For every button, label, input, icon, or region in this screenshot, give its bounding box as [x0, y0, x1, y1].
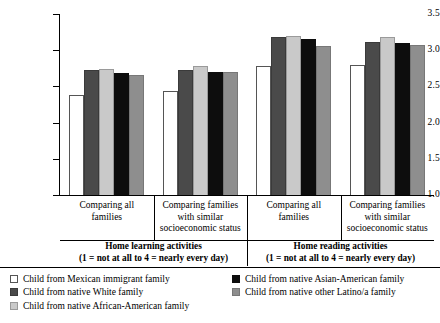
legend-column-right: Child from native Asian-American familyC… — [232, 272, 404, 299]
category-label-line: Comparing families — [341, 200, 435, 212]
y-tick-mark — [53, 50, 59, 51]
category-label-line: families — [247, 212, 341, 224]
bars-container — [60, 14, 434, 196]
category-label-line: socioeconomic status — [154, 223, 248, 235]
category-label: Comparing allfamilies — [247, 196, 341, 242]
category-label: Comparing allfamilies — [60, 196, 154, 242]
category-label-line: families — [60, 212, 154, 224]
category-label-line: with similar — [341, 212, 435, 224]
category-label-line: with similar — [154, 212, 248, 224]
legend-swatch-icon — [10, 275, 18, 283]
section-title-text: Home learning activities — [60, 241, 247, 253]
bar — [271, 37, 286, 196]
bar — [84, 70, 99, 196]
bar-group — [60, 14, 154, 196]
category-label-line: Comparing all — [60, 200, 154, 212]
legend-swatch-icon — [232, 275, 240, 283]
legend-swatch-icon — [10, 302, 18, 310]
legend-column-left: Child from Mexican immigrant familyChild… — [10, 272, 189, 313]
bar — [129, 75, 144, 196]
category-separator — [341, 196, 342, 241]
legend-label: Child from native African-American famil… — [23, 301, 189, 311]
legend-item[interactable]: Child from native White family — [10, 286, 189, 300]
plot-area: 1.01.52.02.53.03.5 — [0, 0, 440, 196]
bar — [69, 95, 84, 196]
bar — [301, 39, 316, 196]
category-label: Comparing familieswith similarsocioecono… — [154, 196, 248, 242]
y-tick-mark — [53, 86, 59, 87]
section-titles: Home learning activities(1 = not at all … — [60, 241, 434, 267]
bar-group — [247, 14, 341, 196]
legend-swatch-icon — [232, 288, 240, 296]
bar-chart: 1.01.52.02.53.03.5 Comparing allfamilies… — [0, 0, 440, 323]
bar — [99, 69, 114, 196]
y-tick-mark — [53, 159, 59, 160]
category-label-line: Comparing all — [247, 200, 341, 212]
legend-label: Child from native Asian-American family — [245, 274, 404, 284]
y-tick-mark — [53, 123, 59, 124]
chart-legend: Child from Mexican immigrant familyChild… — [0, 272, 440, 320]
legend-item[interactable]: Child from Mexican immigrant family — [10, 272, 189, 286]
section-scale-note: (1 = not at all to 4 = nearly every day) — [60, 253, 247, 265]
legend-item[interactable]: Child from native other Latino/a family — [232, 286, 404, 300]
bar — [316, 46, 331, 196]
legend-label: Child from native White family — [23, 287, 143, 297]
legend-item[interactable]: Child from native Asian-American family — [232, 272, 404, 286]
bar — [163, 91, 178, 196]
section-title: Home learning activities(1 = not at all … — [60, 241, 247, 267]
bar — [380, 37, 395, 196]
bar — [178, 70, 193, 196]
bar — [256, 66, 271, 196]
bar — [223, 72, 238, 196]
category-label-line: Comparing families — [154, 200, 248, 212]
bar-group — [154, 14, 248, 196]
bar — [365, 42, 380, 196]
bar — [208, 72, 223, 196]
y-tick-mark — [53, 14, 59, 15]
bar — [395, 43, 410, 196]
section-title-text: Home reading activities — [247, 241, 434, 253]
category-label: Comparing familieswith similarsocioecono… — [341, 196, 435, 242]
section-scale-note: (1 = not at all to 4 = nearly every day) — [247, 253, 434, 265]
section-title: Home reading activities(1 = not at all t… — [247, 241, 434, 267]
bar — [193, 66, 208, 196]
category-separator — [154, 196, 155, 241]
legend-label: Child from native other Latino/a family — [245, 287, 396, 297]
legend-swatch-icon — [10, 288, 18, 296]
legend-item[interactable]: Child from native African-American famil… — [10, 299, 189, 313]
bar — [286, 36, 301, 196]
bar — [350, 65, 365, 196]
section-rule-bottom — [0, 267, 440, 268]
legend-label: Child from Mexican immigrant family — [23, 274, 170, 284]
bar — [410, 45, 425, 196]
category-label-line: socioeconomic status — [341, 223, 435, 235]
bar — [114, 73, 129, 196]
bar-group — [341, 14, 435, 196]
